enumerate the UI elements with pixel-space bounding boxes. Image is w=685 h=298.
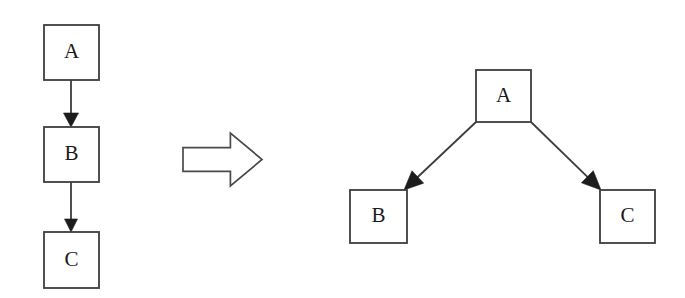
right-node-b[interactable]: B xyxy=(350,190,407,243)
edge-line xyxy=(417,122,476,178)
diagram-canvas: A B C xyxy=(0,0,685,298)
transform-arrow xyxy=(183,133,262,186)
left-graph: A B C xyxy=(44,25,99,288)
left-node-c[interactable]: C xyxy=(44,232,99,288)
node-label: A xyxy=(64,39,80,63)
diagram-root: A B C xyxy=(0,0,685,298)
node-label: C xyxy=(620,203,634,227)
left-edge-a-b xyxy=(64,80,79,127)
right-node-c[interactable]: C xyxy=(600,190,655,243)
node-label: C xyxy=(64,247,78,271)
right-node-a[interactable]: A xyxy=(476,70,531,122)
right-edge-a-b xyxy=(404,122,476,190)
left-node-a[interactable]: A xyxy=(44,25,99,80)
node-label: B xyxy=(371,203,385,227)
left-node-b[interactable]: B xyxy=(44,127,99,182)
node-label: B xyxy=(64,141,78,165)
edge-line xyxy=(531,122,588,178)
node-label: A xyxy=(496,83,512,107)
left-edge-b-c xyxy=(65,182,78,232)
arrowhead-icon xyxy=(64,113,79,127)
right-graph: A B C xyxy=(350,70,655,243)
right-edge-a-c xyxy=(531,122,601,190)
block-right-arrow-icon xyxy=(183,133,262,186)
arrowhead-icon xyxy=(65,219,78,232)
